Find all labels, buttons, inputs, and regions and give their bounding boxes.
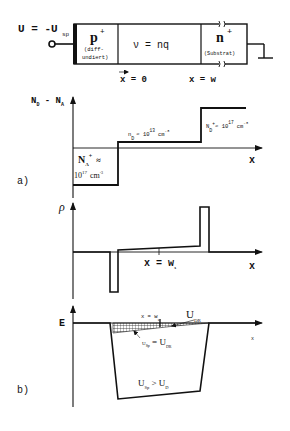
voltage-label: U = -U <box>18 23 58 35</box>
x-axis-label: x <box>249 155 255 166</box>
p-region-sup: + <box>100 27 105 36</box>
electric-field-plot: E x b) x = w1 UDR USp = UDR USp > UD <box>17 306 262 407</box>
p-region-note-1: (diff- <box>84 46 104 53</box>
panel-tag-a: a) <box>17 176 29 187</box>
charge-curve <box>73 207 255 292</box>
doping-profile-plot: ND - NA x a) NA+≈ 1017cm-3 nD≈ 1013cm-3 … <box>17 96 262 198</box>
x-axis-label: x <box>251 336 254 342</box>
usp-pointer <box>134 331 140 338</box>
y-axis-label: ρ <box>58 200 65 214</box>
p-region-note-2: undiert) <box>82 54 108 61</box>
pin-diode-diagram: U = -U sp p + (diff- undiert) ν = nq n +… <box>0 0 290 431</box>
nd-label: nD≈ 1013cm-3 <box>128 128 170 142</box>
voltage-sub: sp <box>62 31 70 38</box>
udr-label: UDR <box>186 308 202 323</box>
ground-icon <box>247 44 273 58</box>
na-value: 1017cm-3 <box>74 170 103 180</box>
p-region-label: p <box>90 30 98 45</box>
pos-x0-label: x = 0 <box>120 75 147 85</box>
y-axis-label: E <box>59 318 65 329</box>
metal-contact <box>73 24 77 64</box>
usp-eq-label: USp = UDR <box>142 337 172 349</box>
n-region-sup: + <box>227 26 232 36</box>
hatched-area <box>113 323 209 333</box>
n-region-note: (Substrat) <box>204 51 235 57</box>
charge-density-plot: ρ x x = w1 <box>58 200 262 299</box>
terminal-icon <box>49 41 55 47</box>
y-axis-label: ND - NA <box>31 96 64 108</box>
usp-gt-label: USp > UD <box>138 378 169 390</box>
ndp-label: ND+≈ 1017cm-3 <box>206 120 249 134</box>
marker-label: x = w1 <box>141 313 160 322</box>
na-label: NA+≈ <box>78 153 101 167</box>
x-axis-label: x <box>249 261 255 272</box>
marker-label: x = w1 <box>144 258 177 270</box>
device-structure: U = -U sp p + (diff- undiert) ν = nq n +… <box>18 21 273 85</box>
intrinsic-region-label: ν = nq <box>133 40 169 51</box>
panel-tag-b: b) <box>17 385 29 396</box>
pos-xw-label: x = w <box>189 75 217 85</box>
n-region-label: n <box>216 30 224 45</box>
